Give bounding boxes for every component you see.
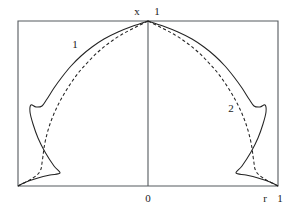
horizontal-axis-label: r: [263, 192, 267, 204]
figure-container: x 1 0 r 1 1 2: [0, 0, 296, 212]
curve-two-label: 2: [228, 102, 234, 114]
plot-canvas: x 1 0 r 1 1 2: [0, 0, 296, 212]
horizontal-axis-max-tick-label: 1: [277, 192, 283, 204]
origin-tick-label: 0: [145, 192, 151, 204]
vertical-axis-label: x: [134, 5, 140, 17]
vertical-axis-max-tick-label: 1: [154, 5, 160, 17]
curve-one-label: 1: [72, 38, 78, 50]
